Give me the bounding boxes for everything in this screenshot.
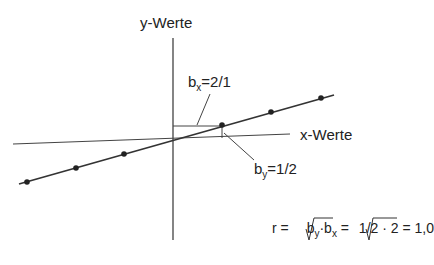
formula-r: r = — [272, 220, 293, 236]
correlation-formula: r = by·bx = 1/2 · 2 = 1,0 — [272, 220, 434, 236]
formula-b2: b — [324, 220, 332, 236]
by-sub: y — [262, 169, 267, 180]
y-axis-label: y-Werte — [140, 14, 192, 31]
by-pointer — [224, 133, 254, 160]
by-value: =1/2 — [267, 160, 297, 177]
x-axis-label: x-Werte — [300, 126, 352, 143]
by-label: by=1/2 — [254, 160, 297, 177]
bx-sub: x — [196, 82, 201, 93]
bx-label: bx=2/1 — [188, 73, 231, 90]
x-axis — [13, 134, 290, 144]
formula-mid: = — [337, 220, 353, 236]
formula-end: = 1,0 — [399, 220, 434, 236]
formula-s2: x — [332, 228, 337, 239]
formula-s1: y — [314, 228, 319, 239]
bx-pointer — [197, 94, 210, 125]
bx-value: =2/1 — [201, 73, 231, 90]
formula-rad2: 1/2 · 2 — [359, 220, 399, 236]
